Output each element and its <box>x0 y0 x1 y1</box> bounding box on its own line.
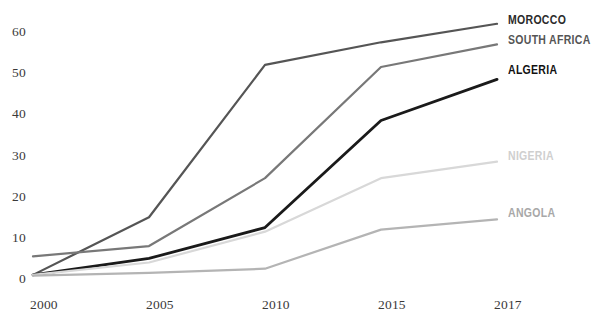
y-axis-tick-label: 0 <box>0 271 26 287</box>
series-label-nigeria: NIGERIA <box>508 148 554 162</box>
x-axis-tick-label: 2010 <box>262 297 290 313</box>
y-axis-tick-label: 10 <box>0 230 26 246</box>
y-axis-tick-label: 50 <box>0 65 26 81</box>
series-label-algeria: ALGERIA <box>508 62 557 76</box>
x-axis-tick-label: 2005 <box>146 297 174 313</box>
x-axis-tick-label: 2017 <box>494 297 522 313</box>
y-axis-tick-label: 30 <box>0 148 26 164</box>
y-axis-tick-label: 40 <box>0 106 26 122</box>
series-label-morocco: MOROCCO <box>508 12 566 26</box>
x-axis-tick-label: 2000 <box>30 297 58 313</box>
series-label-south-africa: SOUTH AFRICA <box>508 32 591 46</box>
series-label-angola: ANGOLA <box>508 205 555 219</box>
series-line-morocco <box>33 24 497 275</box>
y-axis-tick-label: 20 <box>0 189 26 205</box>
x-axis-tick-label: 2015 <box>378 297 406 313</box>
y-axis-tick-label: 60 <box>0 24 26 40</box>
